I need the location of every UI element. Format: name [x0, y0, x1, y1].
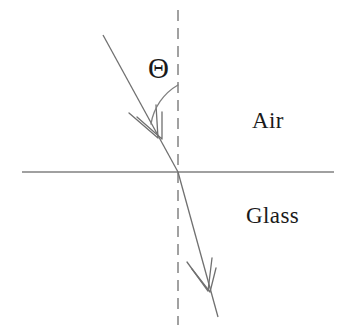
- angle-of-incidence-arc: [151, 85, 178, 124]
- refracted-ray: [178, 172, 218, 317]
- angle-symbol-label: Θ: [148, 54, 169, 83]
- refraction-diagram: Θ Air Glass: [0, 0, 344, 332]
- medium-label-glass: Glass: [246, 204, 299, 227]
- refracted-ray-arrowhead-icon: [187, 258, 216, 292]
- medium-label-air: Air: [252, 109, 284, 132]
- refraction-diagram-canvas: [0, 0, 344, 332]
- incident-ray-arrowhead-icon: [129, 105, 162, 139]
